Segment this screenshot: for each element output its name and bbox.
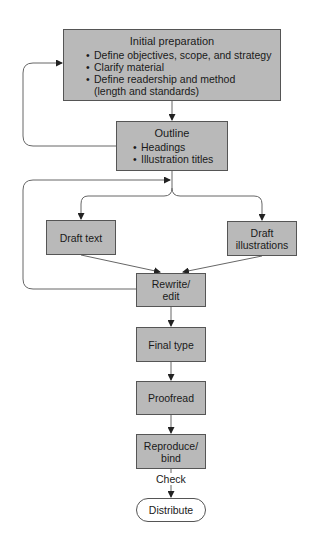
bullet-clarify: Clarify material	[86, 61, 274, 73]
rewrite-edit-box: Rewrite/ edit	[136, 273, 206, 307]
initial-preparation-bullets: Define objectives, scope, and strategy C…	[86, 49, 274, 85]
reproduce-bind-line1: Reproduce/	[144, 440, 198, 452]
bullet-objectives: Define objectives, scope, and strategy	[86, 49, 274, 61]
initial-preparation-title: Initial preparation	[70, 35, 274, 47]
check-edge-label: Check	[155, 473, 187, 485]
reproduce-bind-line2: bind	[161, 452, 181, 464]
outline-box: Outline Headings Illustration titles	[116, 121, 228, 171]
rewrite-edit-line1: Rewrite/	[152, 278, 191, 290]
bullet-illustration-titles: Illustration titles	[133, 153, 221, 165]
rewrite-edit-line2: edit	[163, 290, 180, 302]
final-type-label: Final type	[148, 339, 194, 351]
outline-bullets: Headings Illustration titles	[133, 141, 221, 165]
draft-text-label: Draft text	[60, 232, 103, 244]
draft-illustrations-line2: illustrations	[236, 239, 289, 251]
reproduce-bind-box: Reproduce/ bind	[136, 434, 206, 469]
draft-illustrations-line1: Draft	[251, 227, 274, 239]
draft-illustrations-box: Draft illustrations	[227, 221, 297, 256]
distribute-label: Distribute	[149, 504, 193, 516]
initial-preparation-box: Initial preparation Define objectives, s…	[63, 29, 281, 101]
proofread-box: Proofread	[136, 381, 206, 415]
draft-text-box: Draft text	[46, 220, 116, 255]
bullet-headings: Headings	[133, 141, 221, 153]
bullet-readership-continuation: (length and standards)	[86, 85, 274, 97]
final-type-box: Final type	[136, 327, 206, 362]
outline-title: Outline	[123, 127, 221, 139]
proofread-label: Proofread	[148, 392, 194, 404]
distribute-terminal: Distribute	[136, 498, 206, 522]
bullet-readership: Define readership and method	[86, 73, 274, 85]
